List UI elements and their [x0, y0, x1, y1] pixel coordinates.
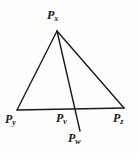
point-label-px: Px [47, 9, 58, 21]
segment-px-py [17, 31, 57, 110]
segment-px-pz [57, 31, 124, 108]
point-label-py-sub: y [12, 118, 16, 127]
point-label-py: Py [5, 113, 16, 125]
point-label-pw: Pw [68, 132, 81, 144]
point-label-px-sub: x [54, 14, 58, 23]
point-label-pv-sub: v [63, 117, 67, 126]
segment-py-pz [17, 108, 124, 110]
geometry-figure: Px Py Pv Pz Pw [0, 0, 139, 153]
point-label-pv: Pv [56, 112, 67, 124]
point-label-pz: Pz [113, 112, 123, 124]
point-label-pw-sub: w [75, 137, 80, 146]
